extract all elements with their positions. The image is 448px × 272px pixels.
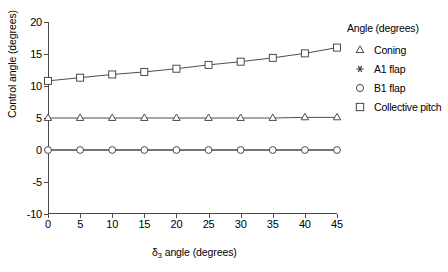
series-b1-flap — [45, 147, 341, 154]
marker-circle — [301, 147, 308, 154]
x-tick-label: 10 — [106, 218, 118, 230]
x-tick-label: 5 — [77, 218, 83, 230]
marker-square — [173, 65, 180, 72]
series-coning — [44, 113, 340, 120]
marker-triangle — [205, 114, 212, 120]
marker-triangle — [109, 114, 116, 120]
y-tick-label: 5 — [36, 112, 42, 124]
legend-item-collective-pitch[interactable]: Collective pitch — [347, 97, 447, 116]
marker-square — [301, 50, 308, 57]
marker-square — [334, 44, 341, 51]
series-line — [48, 117, 337, 118]
marker-triangle — [301, 113, 308, 119]
x-tick-label: 35 — [267, 218, 279, 230]
y-tick-label: 0 — [36, 144, 42, 156]
legend-title: Angle (degrees) — [347, 22, 447, 34]
marker-circle — [109, 147, 116, 154]
legend-item-label: Collective pitch — [374, 101, 441, 113]
marker-circle — [237, 147, 244, 154]
marker-triangle — [269, 114, 276, 120]
marker-square — [237, 58, 244, 65]
x-axis-label-text: angle (degrees) — [162, 246, 237, 258]
circle-icon — [352, 80, 368, 96]
y-tick-label: 10 — [30, 80, 42, 92]
y-tick-label: 20 — [30, 16, 42, 28]
marker-square — [205, 61, 212, 68]
marker-circle — [205, 147, 212, 154]
series-line — [48, 48, 337, 81]
y-tick-label: -5 — [33, 176, 42, 188]
square-icon — [352, 99, 368, 115]
marker-triangle — [333, 113, 340, 119]
legend: Angle (degrees) ConingA1 flapB1 flapColl… — [347, 22, 447, 116]
marker-square — [356, 103, 363, 110]
legend-item-a1-flap[interactable]: A1 flap — [347, 59, 447, 78]
marker-square — [269, 54, 276, 61]
marker-circle — [77, 147, 84, 154]
x-tick-label: 20 — [171, 218, 183, 230]
legend-item-coning[interactable]: Coning — [347, 40, 447, 59]
x-axis-label-symbol: δ — [152, 246, 158, 258]
marker-square — [77, 74, 84, 81]
marker-square — [109, 71, 116, 78]
legend-items: ConingA1 flapB1 flapCollective pitch — [347, 40, 447, 116]
legend-item-label: Coning — [374, 44, 406, 56]
marker-circle — [356, 84, 363, 91]
marker-triangle — [76, 114, 83, 120]
chart-figure: -10-505101520 051015202530354045 Control… — [0, 0, 448, 272]
marker-circle — [173, 147, 180, 154]
marker-square — [45, 77, 52, 84]
x-tick-label: 15 — [138, 218, 150, 230]
marker-triangle — [237, 114, 244, 120]
y-tick-label: 15 — [30, 48, 42, 60]
marker-triangle — [356, 45, 364, 52]
legend-item-label: A1 flap — [374, 63, 405, 75]
marker-square — [141, 68, 148, 75]
x-tick-label: 30 — [235, 218, 247, 230]
legend-item-b1-flap[interactable]: B1 flap — [347, 78, 447, 97]
asterisk-icon — [352, 61, 368, 77]
marker-circle — [45, 147, 52, 154]
x-tick-label: 45 — [331, 218, 343, 230]
marker-asterisk — [357, 65, 364, 71]
series-collective-pitch — [45, 44, 341, 84]
y-axis-label: Control angle (degrees) — [6, 10, 18, 118]
plot-area: -10-505101520 051015202530354045 — [48, 22, 337, 214]
legend-item-label: B1 flap — [374, 82, 405, 94]
y-tick-label: -10 — [27, 208, 42, 220]
x-tick-label: 25 — [203, 218, 215, 230]
marker-circle — [141, 147, 148, 154]
x-tick-label: 40 — [299, 218, 311, 230]
marker-triangle — [141, 114, 148, 120]
x-tick-label: 0 — [45, 218, 51, 230]
marker-triangle — [173, 114, 180, 120]
series-layer — [48, 22, 337, 214]
x-axis-label-subscript: 3 — [158, 251, 162, 260]
x-axis-label: δ3 angle (degrees) — [152, 246, 237, 258]
marker-circle — [334, 147, 341, 154]
marker-circle — [269, 147, 276, 154]
triangle-icon — [352, 42, 368, 58]
